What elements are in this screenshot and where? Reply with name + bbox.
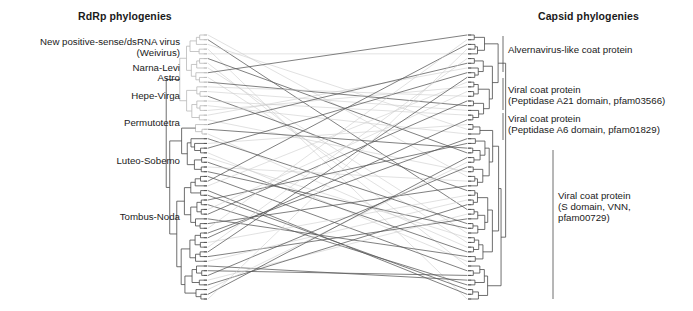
link-lines-group (208, 35, 467, 299)
tanglegram-link (208, 87, 467, 111)
capsid-label-brackets (503, 36, 553, 299)
tanglegram-link (208, 162, 467, 252)
tanglegram-link (208, 101, 467, 214)
rdrp-clade-label: Tombus-Noda (120, 211, 180, 222)
capsid-tree-group (468, 35, 506, 299)
tanglegram-figure: RdRp phylogenies Capsid phylogenies New … (0, 0, 693, 311)
rdrp-clade-label: Astro (157, 72, 180, 83)
tanglegram-link (208, 106, 467, 134)
rdrp-clade-label: Permutotetra (124, 117, 180, 128)
capsid-clade-label: Alvernavirus-like coat protein (508, 44, 632, 55)
capsid-clade-label: Viral coat protein (Peptidase A6 domain,… (508, 113, 660, 135)
capsid-clade-label: Viral coat protein (S domain, VNN, pfam0… (558, 190, 631, 223)
rdrp-clade-label: Luteo-Sobemo (116, 155, 180, 166)
tanglegram-link (208, 92, 467, 111)
tanglegram-link (208, 167, 467, 275)
rdrp-clade-label: New positive-sense/dsRNA virus (Weivirus… (40, 36, 180, 58)
rdrp-clade-label: Hepe-Virga (131, 90, 180, 101)
capsid-clade-label: Viral coat protein (Peptidase A21 domain… (508, 84, 665, 106)
